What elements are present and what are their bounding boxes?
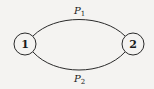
edge-label-p2: P2 <box>73 73 85 86</box>
edge-label-p1-sub: 1 <box>81 10 85 18</box>
node-2: 2 <box>122 33 144 55</box>
edge-label-p1: P1 <box>73 5 85 18</box>
edge-p2 <box>33 52 125 70</box>
node-2-label: 2 <box>129 38 137 51</box>
edge-p1 <box>33 20 125 37</box>
edge-label-p2-sub: 2 <box>81 78 85 86</box>
graph-diagram: 1 2 P1 P2 <box>0 0 154 89</box>
node-1: 1 <box>14 33 36 55</box>
diagram-svg: 1 2 P1 P2 <box>0 0 154 89</box>
node-1-label: 1 <box>21 38 29 51</box>
